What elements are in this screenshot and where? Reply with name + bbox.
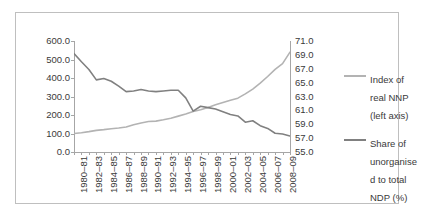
- x-axis-tick-mark: [156, 152, 157, 155]
- x-axis-tick-mark: [111, 152, 112, 155]
- x-axis-tick-mark: [134, 152, 135, 155]
- right-axis-tick-label: 57.0: [295, 133, 314, 143]
- x-axis-tick-mark: [186, 152, 187, 155]
- x-axis-tick-labels: 1980–811982–831984–851986–871988–891990–…: [74, 156, 294, 216]
- left-axis-tick-labels: 0.0100.0200.0300.0400.0500.0600.0: [26, 41, 70, 153]
- x-axis-tick-mark: [216, 152, 217, 155]
- x-axis-tick-mark: [178, 152, 179, 155]
- x-axis-tick-mark: [223, 152, 224, 155]
- x-axis-tick-label: 1982–83: [93, 156, 104, 193]
- x-axis-tick-label: 1984–85: [108, 156, 119, 193]
- x-axis-tick-mark: [268, 152, 269, 155]
- right-axis-tick-label: 69.0: [295, 50, 314, 60]
- x-axis-tick-label: 2006–07: [272, 156, 283, 193]
- x-axis-tick-label: 2000–01: [227, 156, 238, 193]
- right-axis-tick-label: 71.0: [295, 36, 314, 46]
- legend-label: Share of unorganise d to total NDP (%): [370, 138, 417, 203]
- x-axis-tick-label: 1996–97: [197, 156, 208, 193]
- left-axis-tick-label: 300.0: [46, 92, 70, 102]
- right-axis-tick-label: 67.0: [295, 64, 314, 74]
- series-lines: [74, 41, 290, 152]
- x-axis-tick-label: 2004–05: [257, 156, 268, 193]
- x-axis-tick-mark: [245, 152, 246, 155]
- x-axis-tick-mark: [119, 152, 120, 155]
- x-axis-tick-mark: [171, 152, 172, 155]
- series-line: [74, 52, 290, 133]
- left-axis-tick-label: 500.0: [46, 55, 70, 65]
- left-axis-tick-label: 200.0: [46, 110, 70, 120]
- right-axis-tick-label: 59.0: [295, 119, 314, 129]
- legend-entry[interactable]: Index of real NNP (left axis): [344, 69, 422, 123]
- series-line: [74, 53, 290, 136]
- x-axis-tick-label: 1992–93: [167, 156, 178, 193]
- x-axis-tick-mark: [74, 152, 75, 155]
- plot-area: [74, 41, 290, 152]
- x-axis-tick-label: 2008–09: [287, 156, 298, 193]
- left-axis-tick-label: 0.0: [57, 147, 70, 157]
- legend-label: Index of real NNP (left axis): [370, 74, 409, 121]
- legend-color-swatch: [344, 139, 366, 141]
- x-axis-tick-label: 1980–81: [78, 156, 89, 193]
- bottom-axis-line: [74, 152, 291, 153]
- chart-frame: 0.0100.0200.0300.0400.0500.0600.0 55.057…: [15, 12, 399, 204]
- x-axis-tick-mark: [290, 152, 291, 155]
- x-axis-tick-mark: [163, 152, 164, 155]
- x-axis-tick-mark: [89, 152, 90, 155]
- x-axis-tick-label: 1994–95: [182, 156, 193, 193]
- x-axis-tick-label: 1986–87: [123, 156, 134, 193]
- x-axis-tick-label: 1990–91: [152, 156, 163, 193]
- left-axis-tick-label: 600.0: [46, 36, 70, 46]
- x-axis-tick-mark: [126, 152, 127, 155]
- x-axis-tick-mark: [104, 152, 105, 155]
- x-axis-tick-label: 1988–89: [138, 156, 149, 193]
- x-axis-tick-mark: [148, 152, 149, 155]
- x-axis-tick-mark: [230, 152, 231, 155]
- x-axis-tick-mark: [253, 152, 254, 155]
- x-axis-tick-mark: [260, 152, 261, 155]
- right-axis-line: [290, 41, 291, 153]
- right-axis-tick-label: 63.0: [295, 92, 314, 102]
- x-axis-tick-mark: [81, 152, 82, 155]
- x-axis-tick-label: 2002–03: [242, 156, 253, 193]
- left-axis-tick-label: 100.0: [46, 129, 70, 139]
- x-axis-tick-mark: [201, 152, 202, 155]
- x-axis-tick-label: 1998–99: [212, 156, 223, 193]
- left-axis-tick-label: 400.0: [46, 73, 70, 83]
- x-axis-tick-mark: [96, 152, 97, 155]
- legend-color-swatch: [344, 75, 366, 77]
- x-axis-tick-mark: [238, 152, 239, 155]
- legend-entry[interactable]: Share of unorganise d to total NDP (%): [344, 133, 422, 205]
- chart-legend: Index of real NNP (left axis)Share of un…: [344, 69, 422, 215]
- x-axis-tick-mark: [283, 152, 284, 155]
- right-axis-tick-labels: 55.057.059.061.063.065.067.069.071.0: [295, 41, 339, 153]
- x-axis-tick-mark: [208, 152, 209, 155]
- x-axis-tick-mark: [193, 152, 194, 155]
- right-axis-tick-label: 61.0: [295, 105, 314, 115]
- x-axis-tick-mark: [275, 152, 276, 155]
- x-axis-tick-mark: [141, 152, 142, 155]
- right-axis-tick-label: 65.0: [295, 78, 314, 88]
